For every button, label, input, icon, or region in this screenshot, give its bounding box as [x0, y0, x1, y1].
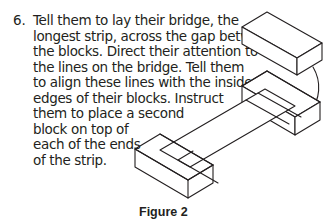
bridge-strip-icon	[160, 89, 301, 183]
top-block-icon	[242, 12, 322, 75]
bridge-blocks-illustration	[0, 0, 335, 220]
figure-caption: Figure 2	[139, 205, 188, 219]
